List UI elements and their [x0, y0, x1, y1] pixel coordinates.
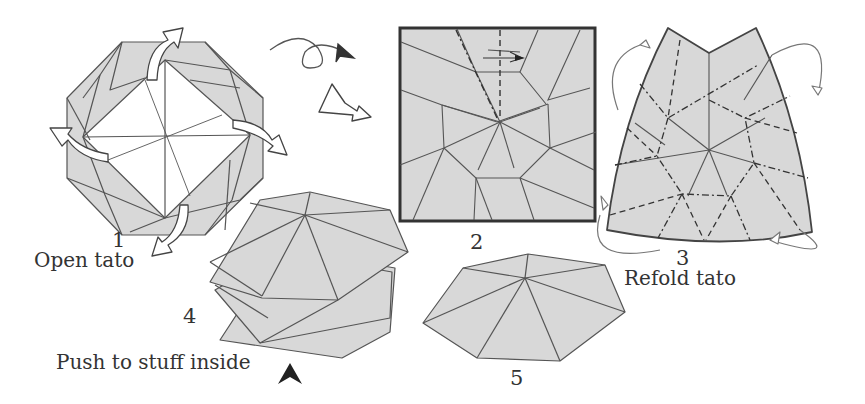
step-5-figure	[423, 254, 625, 361]
turn-over-icon	[270, 38, 354, 68]
step-2-figure	[400, 28, 596, 221]
diagram-canvas	[0, 0, 865, 404]
origami-diagram: 1 Open tato 2 3 Refold tato 4 Push to st…	[0, 0, 865, 404]
step-4-caption: Push to stuff inside	[56, 352, 251, 372]
step-4-number: 4	[183, 306, 196, 327]
hollow-arrow-icon	[319, 84, 371, 121]
step-4-figure	[210, 192, 408, 358]
step-2-number: 2	[470, 232, 483, 253]
step-1-figure	[67, 42, 263, 235]
step-3-figure	[598, 28, 823, 253]
push-arrow-icon	[278, 363, 302, 384]
step-3-caption: Refold tato	[624, 268, 736, 288]
step-5-number: 5	[510, 368, 523, 389]
step-1-caption: Open tato	[34, 250, 134, 270]
